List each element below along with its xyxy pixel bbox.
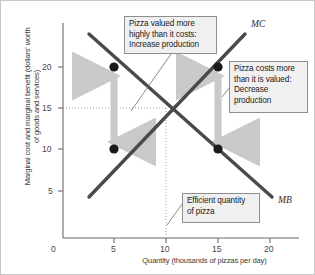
x-tick-label-20: 20 — [264, 244, 274, 254]
callout-left-line1: Pizza valued more — [129, 19, 212, 30]
y-tick-label-10: 10 — [42, 144, 52, 154]
x-axis-label: Quantity (thousands of pizzas per day) — [97, 256, 312, 265]
callout-decrease-production: Pizza costs more than it is valued: Decr… — [229, 61, 308, 113]
marker-mc-q15 — [213, 62, 222, 71]
y-tick-label-15: 15 — [42, 103, 52, 113]
x-tick-label-10: 10 — [160, 244, 170, 254]
y-tick-label-20: 20 — [42, 62, 52, 72]
y-tick-label-5: 5 — [48, 186, 53, 196]
callout-left-line3: Increase production — [129, 40, 212, 51]
x-tick-label-15: 15 — [212, 244, 222, 254]
callout-right-line3: Decrease — [234, 85, 303, 96]
chart-figure: Marginal cost and marginal benefit (doll… — [0, 0, 315, 275]
x-tick-label-0: 0 — [51, 244, 56, 254]
callout-increase-production: Pizza valued more highly than it costs: … — [124, 16, 217, 54]
callout-efficient-quantity: Efficient quantity of pizza — [182, 193, 260, 223]
x-tick-label-5: 5 — [111, 244, 116, 254]
callout-right-line1: Pizza costs more — [234, 64, 303, 75]
y-axis-label: Marginal cost and marginal benefit (doll… — [23, 26, 42, 186]
mc-curve-label: MC — [251, 18, 265, 29]
marker-mb-q15 — [213, 144, 222, 153]
marker-mb-q5 — [109, 62, 118, 71]
callout-right-line4: production — [234, 96, 303, 107]
callout-eff-line2: of pizza — [187, 207, 255, 218]
callout-eff-line1: Efficient quantity — [187, 196, 255, 207]
mb-curve-label: MB — [278, 194, 292, 205]
callout-left-line2: highly than it costs: — [129, 30, 212, 41]
marker-mc-q5 — [109, 144, 118, 153]
callout-right-line2: than it is valued: — [234, 75, 303, 86]
